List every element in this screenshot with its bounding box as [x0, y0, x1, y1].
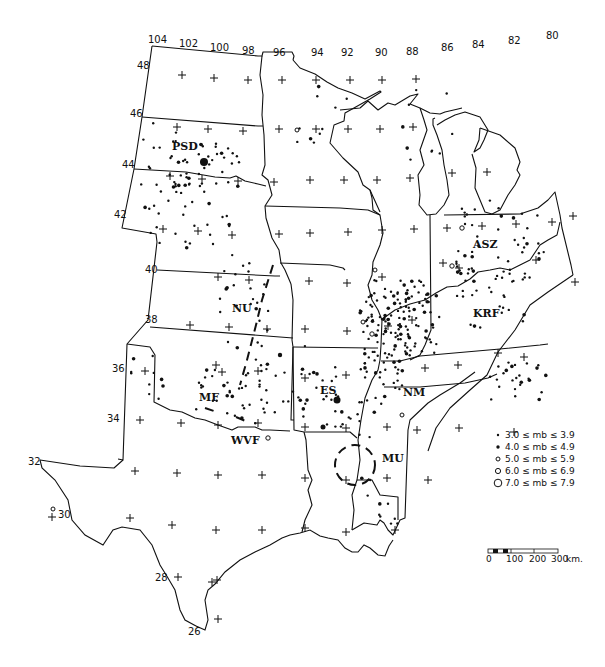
lat-label: 38: [145, 314, 158, 325]
zone-label-mu: MU: [382, 452, 404, 465]
lat-label: 32: [28, 456, 41, 467]
scale-tick-100: 100: [506, 554, 523, 564]
lon-label: 100: [210, 42, 229, 53]
lon-label: 102: [179, 38, 198, 49]
meers-fault-line: [205, 408, 217, 412]
legend-item-label: 5.0 ≤ mb ≤ 5.9: [505, 454, 575, 464]
lat-label: 42: [114, 209, 127, 220]
legend-symbol-small-circle-icon: [496, 457, 500, 461]
lon-label: 82: [508, 35, 521, 46]
lon-label: 90: [375, 47, 388, 58]
legend-item-label: 7.0 ≤ mb ≤ 7.9: [505, 478, 575, 488]
scale-unit: km.: [566, 554, 583, 564]
scale-bar: 0 100 200 300 km.: [486, 549, 583, 564]
lon-label: 84: [472, 39, 485, 50]
lat-label: 26: [188, 626, 201, 637]
zone-label-nm: NM: [403, 386, 425, 399]
lon-label: 86: [441, 42, 454, 53]
zone-label-wvf: WVF: [230, 434, 260, 447]
seismicity-map: 104 102 100 98 96 94 92 90 88 86 84 82 8…: [0, 0, 605, 667]
zone-label-krf: KRF: [473, 307, 500, 320]
lat-label: 28: [155, 572, 168, 583]
state-borders: [40, 46, 573, 630]
lat-label: 30: [58, 509, 71, 520]
scale-tick-0: 0: [486, 554, 492, 564]
lat-label: 40: [145, 264, 158, 275]
legend-item-label: 4.0 ≤ mb ≤ 4.9: [505, 442, 575, 452]
zone-label-mf: MF: [199, 391, 219, 404]
legend-symbol-small-dot-icon: [497, 434, 499, 436]
zone-label-es: ES: [320, 384, 336, 397]
lon-label: 94: [311, 47, 324, 58]
lat-label: 48: [137, 60, 150, 71]
legend-symbol-medium-dot-icon: [496, 445, 499, 448]
legend-item-label: 6.0 ≤ mb ≤ 6.9: [505, 466, 575, 476]
epicenters: [51, 85, 548, 525]
lon-label: 96: [273, 47, 286, 58]
lat-label: 36: [112, 363, 125, 374]
lon-label: 92: [341, 47, 354, 58]
magnitude-legend: 3.0 ≤ mb ≤ 3.9 4.0 ≤ mb ≤ 4.9 5.0 ≤ mb ≤…: [494, 430, 575, 488]
lat-label: 46: [130, 108, 143, 119]
seismic-zone-labels: PSD NU MF WVF ES NM MU ASZ KRF: [172, 140, 500, 465]
lon-label: 104: [148, 34, 167, 45]
longitude-labels: 104 102 100 98 96 94 92 90 88 86 84 82 8…: [148, 30, 559, 58]
zone-label-nu: NU: [232, 302, 252, 315]
lon-label: 98: [242, 45, 255, 56]
lat-label: 34: [107, 413, 120, 424]
zone-label-psd: PSD: [172, 140, 198, 153]
zone-label-asz: ASZ: [472, 238, 498, 251]
mississippi-embayment-dashed-outline: [335, 445, 375, 485]
scale-tick-200: 200: [529, 554, 546, 564]
lon-label: 88: [406, 46, 419, 57]
legend-symbol-large-circle-icon: [494, 479, 502, 487]
nemaha-uplift-dashed-line: [240, 265, 273, 385]
legend-item-label: 3.0 ≤ mb ≤ 3.9: [505, 430, 575, 440]
lon-label: 80: [546, 30, 559, 41]
lat-label: 44: [122, 159, 135, 170]
legend-symbol-medium-circle-icon: [495, 468, 500, 473]
